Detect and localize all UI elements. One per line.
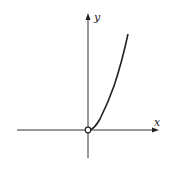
x-axis-label: x	[154, 116, 161, 129]
graph-canvas: x y	[0, 0, 177, 170]
function-curve	[90, 34, 128, 130]
y-axis-arrowhead	[86, 13, 91, 20]
open-circle-origin	[85, 127, 91, 133]
y-axis-label: y	[93, 11, 101, 24]
